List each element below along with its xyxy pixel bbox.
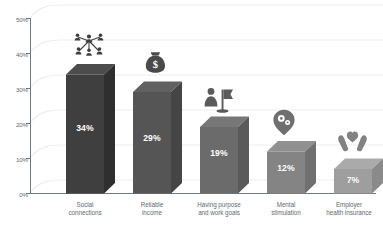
x-label-mental-stimulation: Mental stimulation	[256, 201, 316, 218]
people-network-icon	[72, 31, 106, 57]
money-bag-icon: $	[143, 50, 167, 74]
x-label-having-purpose: Having purpose and work goals	[183, 201, 255, 218]
bar-value-reliable-income: 29%	[133, 133, 171, 143]
svg-text:$: $	[152, 59, 157, 70]
bar-value-mental-stimulation: 12%	[267, 163, 305, 173]
hands-heart-icon	[335, 126, 369, 156]
x-label-reliable-income: Reliable income	[123, 201, 181, 218]
brain-gears-icon	[268, 108, 300, 136]
bar-value-social-connections: 34%	[66, 123, 104, 133]
person-goal-flag-icon	[200, 84, 238, 114]
bars	[0, 0, 383, 229]
bar-value-employer-health-insurance: 7%	[334, 175, 372, 185]
x-label-social-connections: Social connections	[56, 201, 114, 218]
x-label-employer-health-insurance: Employer health insurance	[315, 201, 383, 218]
bar-value-having-purpose: 19%	[200, 148, 238, 158]
bar-chart: 50% 40% 30% 20% 10% 0%	[0, 0, 383, 229]
